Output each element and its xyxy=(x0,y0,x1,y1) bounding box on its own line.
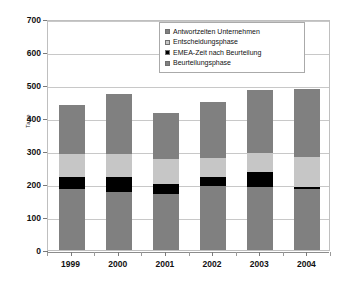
x-tick-mark-2003 xyxy=(259,252,260,256)
bar-segment[interactable] xyxy=(106,177,132,192)
x-tick-mark-2000 xyxy=(118,252,119,256)
gridline-500 xyxy=(48,87,329,88)
bar-segment[interactable] xyxy=(294,189,320,250)
bar-segment[interactable] xyxy=(153,194,179,250)
y-tick-mark-400 xyxy=(43,119,47,120)
bar-segment[interactable] xyxy=(247,90,273,153)
legend-item-label: Antwortzeiten Unternehmen xyxy=(173,28,260,36)
stacked-bar-chart: Tage 0100200300400500600700 199920002001… xyxy=(0,0,344,285)
bar-group-1999[interactable] xyxy=(59,19,85,250)
y-tick-label-500: 500 xyxy=(1,81,41,91)
bar-segment[interactable] xyxy=(59,177,85,189)
legend-item[interactable]: Beurteilungsphase xyxy=(165,58,300,68)
y-tick-mark-600 xyxy=(43,53,47,54)
legend: Antwortzeiten UnternehmenEntscheidungsph… xyxy=(159,22,305,73)
bar-segment[interactable] xyxy=(247,153,273,171)
x-tick-label-2002: 2002 xyxy=(190,259,234,269)
bar-segment[interactable] xyxy=(294,187,320,189)
y-tick-mark-200 xyxy=(43,185,47,186)
legend-item[interactable]: Antwortzeiten Unternehmen xyxy=(165,27,300,37)
bar-group-2000[interactable] xyxy=(106,19,132,250)
bar-segment[interactable] xyxy=(200,102,226,158)
y-tick-label-0: 0 xyxy=(1,246,41,256)
y-tick-mark-500 xyxy=(43,86,47,87)
x-tick-label-2001: 2001 xyxy=(143,259,187,269)
legend-swatch-icon xyxy=(165,50,170,55)
y-tick-mark-700 xyxy=(43,20,47,21)
bar-segment[interactable] xyxy=(294,89,320,157)
x-axis-boundary-tick xyxy=(330,252,331,256)
y-tick-label-100: 100 xyxy=(1,213,41,223)
gridline-100 xyxy=(48,219,329,220)
x-tick-label-2000: 2000 xyxy=(96,259,140,269)
bar-segment[interactable] xyxy=(153,184,179,194)
bar-segment[interactable] xyxy=(200,177,226,185)
bar-segment[interactable] xyxy=(106,94,132,153)
x-tick-mark-2002 xyxy=(212,252,213,256)
bar-segment[interactable] xyxy=(59,189,85,250)
bar-segment[interactable] xyxy=(247,172,273,188)
bar-segment[interactable] xyxy=(247,187,273,250)
bar-segment[interactable] xyxy=(200,158,226,178)
legend-swatch-icon xyxy=(165,40,170,45)
legend-item-label: EMEA-Zeit nach Beurteilung xyxy=(173,49,261,57)
x-axis-boundary-tick xyxy=(141,252,142,256)
legend-item-label: Entscheidungsphase xyxy=(173,38,238,46)
bar-segment[interactable] xyxy=(59,105,85,155)
x-axis-boundary-tick xyxy=(47,252,48,256)
x-axis-boundary-tick xyxy=(94,252,95,256)
x-tick-label-2004: 2004 xyxy=(284,259,328,269)
gridline-400 xyxy=(48,120,329,121)
legend-swatch-icon xyxy=(165,29,170,34)
y-tick-label-600: 600 xyxy=(1,48,41,58)
gridline-200 xyxy=(48,186,329,187)
x-axis-boundary-tick xyxy=(189,252,190,256)
x-axis-boundary-tick xyxy=(283,252,284,256)
legend-item-label: Beurteilungsphase xyxy=(173,59,231,67)
y-tick-label-200: 200 xyxy=(1,180,41,190)
x-tick-mark-1999 xyxy=(71,252,72,256)
x-tick-mark-2004 xyxy=(306,252,307,256)
bar-segment[interactable] xyxy=(153,159,179,184)
x-axis-boundary-tick xyxy=(236,252,237,256)
y-tick-mark-100 xyxy=(43,218,47,219)
x-tick-label-2003: 2003 xyxy=(237,259,281,269)
bar-segment[interactable] xyxy=(59,154,85,177)
bar-segment[interactable] xyxy=(106,192,132,250)
bar-segment[interactable] xyxy=(200,186,226,250)
bar-segment[interactable] xyxy=(153,113,179,159)
gridline-300 xyxy=(48,153,329,154)
legend-item[interactable]: EMEA-Zeit nach Beurteilung xyxy=(165,48,300,58)
x-tick-label-1999: 1999 xyxy=(49,259,93,269)
y-tick-label-700: 700 xyxy=(1,15,41,25)
bar-segment[interactable] xyxy=(106,154,132,177)
y-tick-mark-300 xyxy=(43,152,47,153)
y-tick-label-400: 400 xyxy=(1,114,41,124)
x-tick-mark-2001 xyxy=(165,252,166,256)
y-tick-label-300: 300 xyxy=(1,147,41,157)
legend-item[interactable]: Entscheidungsphase xyxy=(165,37,300,47)
legend-swatch-icon xyxy=(165,61,170,66)
bar-segment[interactable] xyxy=(294,157,320,187)
